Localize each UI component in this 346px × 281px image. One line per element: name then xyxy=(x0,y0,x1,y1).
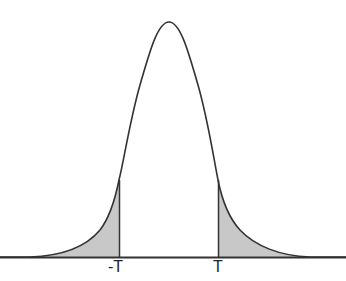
density-curve xyxy=(0,22,346,257)
distribution-diagram xyxy=(0,0,346,281)
right-threshold-label: T xyxy=(213,259,223,275)
left-tail-shaded-region xyxy=(30,180,119,257)
left-threshold-label: -T xyxy=(108,259,123,275)
